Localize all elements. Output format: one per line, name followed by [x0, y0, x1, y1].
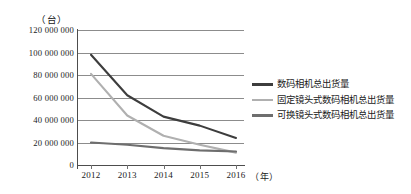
- legend-item[interactable]: 可换镜头式数码相机总出货量: [252, 109, 411, 122]
- legend-item[interactable]: 数码相机总出货量: [252, 78, 411, 91]
- legend-item-label: 数码相机总出货量: [277, 78, 349, 91]
- x-axis-tick-mark: [127, 165, 128, 169]
- legend-item-label: 固定镜头式数码相机总出货量: [277, 94, 394, 107]
- series-line: [91, 74, 236, 153]
- legend-item[interactable]: 固定镜头式数码相机总出货量: [252, 94, 411, 107]
- legend-color-swatch: [252, 99, 273, 102]
- chart-legend: 数码相机总出货量固定镜头式数码相机总出货量可换镜头式数码相机总出货量: [252, 78, 411, 125]
- x-axis-tick-mark: [164, 165, 165, 169]
- legend-item-label: 可换镜头式数码相机总出货量: [277, 109, 394, 122]
- x-axis-tick-mark: [91, 165, 92, 169]
- x-axis-tick-mark: [236, 165, 237, 169]
- legend-color-swatch: [252, 114, 273, 117]
- series-line: [91, 55, 236, 138]
- line-chart-figure: （台） 020 000 00040 000 00060 000 00080 00…: [0, 0, 411, 194]
- legend-color-swatch: [252, 83, 273, 86]
- x-axis-tick-mark: [200, 165, 201, 169]
